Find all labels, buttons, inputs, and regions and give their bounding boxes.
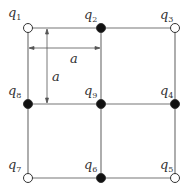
charge-q1-node (24, 24, 33, 33)
charge-label-q4: q4 (160, 84, 173, 100)
charge-q9-node (97, 100, 106, 109)
dimension-label-horizontal: a (70, 52, 78, 65)
charge-q8-node (24, 100, 33, 109)
charge-q2-node (97, 24, 106, 33)
charge-label-q5: q5 (160, 158, 173, 174)
charge-label-q2: q2 (84, 8, 97, 24)
charge-q6-node (97, 174, 106, 183)
charge-label-q6: q6 (84, 158, 97, 174)
charge-q3-node (171, 24, 180, 33)
dimension-label-vertical: a (52, 70, 60, 83)
charge-label-q8: q8 (8, 84, 21, 100)
charge-label-q3: q3 (160, 8, 173, 24)
charge-label-q7: q7 (8, 158, 21, 174)
charge-q5-node (171, 174, 180, 183)
charge-label-q1: q1 (8, 6, 21, 22)
charge-q7-node (24, 174, 33, 183)
charge-q4-node (171, 100, 180, 109)
charge-label-q9: q9 (84, 84, 97, 100)
